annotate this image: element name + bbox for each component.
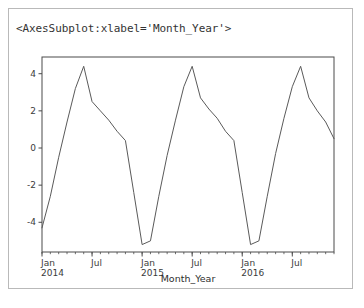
y-tick-label: -2 <box>27 180 36 190</box>
matplotlib-figure: 420-2-4 Jan2014JulJan2015JulJan2016Jul M… <box>9 39 354 289</box>
x-tick-label-month: Jul <box>190 258 202 268</box>
x-tick-label-month: Jul <box>90 258 102 268</box>
plot-axes-frame <box>42 57 334 252</box>
x-tick-label-year: 2016 <box>241 268 264 278</box>
x-tick-label-year: 2014 <box>41 268 64 278</box>
y-tick-label: 4 <box>30 69 36 79</box>
line-chart: 420-2-4 Jan2014JulJan2015JulJan2016Jul M… <box>9 39 354 289</box>
y-tick-label: 0 <box>30 143 36 153</box>
y-tick-label: -4 <box>27 217 36 227</box>
y-axis-ticks: 420-2-4 <box>27 69 42 228</box>
axes-spines <box>42 57 334 252</box>
x-tick-label-month: Jan <box>240 258 255 268</box>
x-tick-label-month: Jan <box>140 258 155 268</box>
x-tick-label-month: Jan <box>40 258 55 268</box>
axes-repr-text: <AxesSubplot:xlabel='Month_Year'> <box>16 22 231 35</box>
x-axis-label: Month_Year <box>161 273 216 284</box>
y-tick-label: 2 <box>30 106 36 116</box>
notebook-output-cell: <AxesSubplot:xlabel='Month_Year'> 420-2-… <box>8 8 353 289</box>
x-tick-label-month: Jul <box>290 258 302 268</box>
